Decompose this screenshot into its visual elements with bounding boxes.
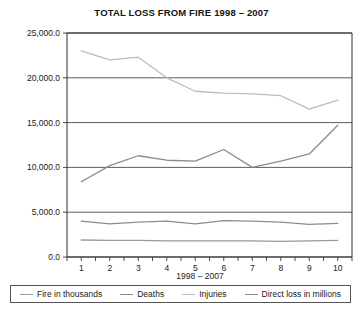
- legend-entry[interactable]: Deaths: [120, 289, 164, 299]
- y-axis-tick-label: 15,000.0: [27, 118, 60, 128]
- y-axis-tick-labels: 0.05,000.010,000.015,000.020,000.025,000…: [27, 28, 60, 262]
- chart-legend: Fire in thousandsDeathsInjuriesDirect lo…: [10, 285, 351, 303]
- legend-entry[interactable]: Direct loss in millions: [245, 289, 341, 299]
- y-axis-tick-label: 10,000.0: [27, 162, 60, 172]
- series-line-injuries: [81, 51, 338, 109]
- x-axis-tick-label: 10: [333, 263, 343, 273]
- legend-label: Direct loss in millions: [262, 289, 341, 299]
- legend-label: Deaths: [137, 289, 164, 299]
- series-line-deaths: [81, 221, 338, 225]
- chart-plot: 0.05,000.010,000.015,000.020,000.025,000…: [0, 0, 363, 310]
- x-axis-ticks: [67, 257, 352, 261]
- legend-entry[interactable]: Fire in thousands: [20, 289, 102, 299]
- legend-label: Fire in thousands: [37, 289, 102, 299]
- x-axis-tick-label: 7: [250, 263, 255, 273]
- legend-entry[interactable]: Injuries: [182, 289, 226, 299]
- series-line-fire-in-thousands: [81, 240, 338, 241]
- x-axis-tick-label: 4: [164, 263, 169, 273]
- data-series-lines: [81, 51, 338, 241]
- legend-label: Injuries: [199, 289, 226, 299]
- x-axis-tick-label: 8: [278, 263, 283, 273]
- chart-container: TOTAL LOSS FROM FIRE 1998 – 2007 0.05,00…: [0, 0, 363, 310]
- x-axis-tick-label: 1: [79, 263, 84, 273]
- x-axis-tick-label: 9: [307, 263, 312, 273]
- legend-color-swatch: [182, 294, 195, 295]
- x-axis-tick-label: 2: [107, 263, 112, 273]
- y-axis-tick-label: 20,000.0: [27, 73, 60, 83]
- y-axis-tick-label: 25,000.0: [27, 28, 60, 38]
- x-axis-tick-label: 3: [136, 263, 141, 273]
- series-line-direct-loss-in-millions: [81, 125, 338, 181]
- legend-color-swatch: [120, 294, 133, 295]
- legend-color-swatch: [245, 294, 258, 295]
- y-axis-tick-label: 5,000.0: [32, 207, 61, 217]
- y-axis-tick-label: 0.0: [48, 252, 60, 262]
- legend-color-swatch: [20, 294, 33, 295]
- x-axis-title: 1998 – 2007: [176, 271, 224, 281]
